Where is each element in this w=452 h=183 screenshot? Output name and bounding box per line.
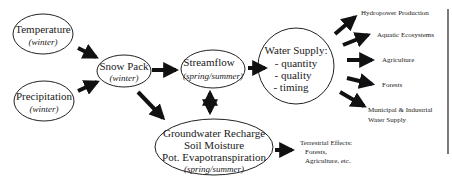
groundwater-line1: Groundwater Recharge — [163, 127, 265, 139]
streamflow-title: Streamflow — [183, 56, 234, 68]
node-streamflow: Streamflow (spring/summer) — [181, 50, 245, 88]
node-precipitation: Precipitation (winter) — [14, 81, 74, 121]
output-hydropower: Hydropower Production — [361, 9, 429, 17]
watersupply-title: Water Supply: — [265, 44, 328, 56]
output-aquatic: Aquatic Ecosystems — [377, 31, 434, 39]
snowpack-title: Snow Pack — [99, 60, 149, 72]
node-groundwater: Groundwater Recharge Soil Moisture Pot. … — [155, 119, 273, 175]
groundwater-line3: Pot. Evapotranspiration — [162, 151, 266, 163]
terrestrial-line3: Agriculture, etc. — [305, 157, 351, 165]
output-labels: Hydropower Production Aquatic Ecosystems… — [361, 9, 434, 124]
terrestrial-effects: Terrestrial Effects: Forests, Agricultur… — [300, 139, 352, 165]
temperature-title: Temperature — [15, 23, 71, 35]
arrow-snowpack-groundwater — [138, 92, 163, 118]
terrestrial-line2: Forests, — [305, 148, 327, 156]
node-watersupply: Water Supply: - quantity - quality - tim… — [258, 28, 334, 104]
arrow-temperature-snowpack — [78, 48, 96, 57]
arrow-to-municipal — [340, 92, 364, 106]
climate-water-diagram: Temperature (winter) Precipitation (wint… — [0, 0, 452, 183]
terrestrial-title: Terrestrial Effects: — [300, 139, 352, 147]
node-temperature: Temperature (winter) — [13, 14, 73, 54]
temperature-sub: (winter) — [29, 37, 58, 47]
output-municipal: Municipal & Industrial — [368, 106, 433, 114]
groundwater-line2: Soil Moisture — [184, 139, 244, 151]
arrow-to-forests — [347, 78, 372, 84]
precipitation-sub: (winter) — [30, 104, 59, 114]
watersupply-item: - quantity — [275, 57, 318, 69]
groundwater-sub: (spring/summer) — [184, 164, 244, 174]
watersupply-item: - quality — [275, 69, 312, 81]
arrow-to-aquatic — [343, 35, 368, 45]
precipitation-title: Precipitation — [16, 90, 73, 102]
watersupply-item: - timing — [273, 81, 309, 93]
output-forests: Forests — [382, 81, 403, 89]
streamflow-sub: (spring/summer) — [183, 71, 243, 81]
snowpack-sub: (winter) — [110, 73, 139, 83]
node-snowpack: Snow Pack (winter) — [97, 55, 151, 87]
arrow-to-hydropower — [335, 17, 355, 34]
arrow-precipitation-snowpack — [78, 82, 97, 91]
output-agriculture: Agriculture — [382, 56, 414, 64]
output-water-supply: Water Supply — [368, 116, 407, 124]
